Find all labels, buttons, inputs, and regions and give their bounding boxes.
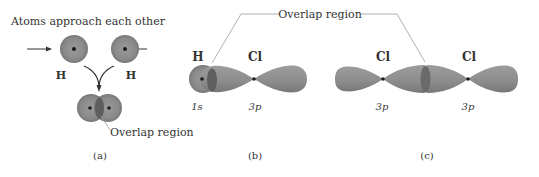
cl-label-b: Cl bbox=[248, 50, 263, 64]
h-atom-left bbox=[60, 35, 88, 63]
orbital-label-3p-c-right: 3p bbox=[462, 101, 475, 112]
h-label-left: H bbox=[56, 69, 66, 82]
overlap-label-shared: Overlap region bbox=[278, 8, 362, 21]
hcl-orbitals bbox=[189, 65, 307, 93]
shared-overlap-callout: Overlap region bbox=[212, 8, 425, 63]
orbital-label-1s: 1s bbox=[191, 101, 203, 112]
overlap-label-a: Overlap region bbox=[110, 126, 194, 139]
panel-b: H Cl 1s 3p (b) bbox=[189, 50, 307, 161]
h2-molecule bbox=[77, 94, 122, 122]
cl-label-c-left: Cl bbox=[376, 50, 391, 64]
caption-c: (c) bbox=[420, 150, 434, 161]
h-label-b: H bbox=[192, 50, 203, 64]
panel-a: Atoms approach each other H H bbox=[10, 15, 194, 161]
orbital-overlap-diagram: Atoms approach each other H H bbox=[0, 0, 539, 177]
arrow-right-icon bbox=[27, 47, 52, 52]
h-label-right: H bbox=[126, 69, 136, 82]
cl-label-c-right: Cl bbox=[462, 50, 477, 64]
panel-c: Cl Cl 3p 3p (c) bbox=[335, 50, 518, 161]
cl2-orbitals bbox=[335, 65, 518, 93]
h-atom-right bbox=[111, 35, 139, 63]
orbital-label-3p-c-left: 3p bbox=[376, 101, 389, 112]
caption-b: (b) bbox=[248, 150, 262, 161]
panel-a-title: Atoms approach each other bbox=[10, 15, 166, 28]
orbital-label-3p-b: 3p bbox=[249, 101, 262, 112]
caption-a: (a) bbox=[93, 150, 107, 161]
merge-arrow-icon bbox=[84, 66, 114, 92]
